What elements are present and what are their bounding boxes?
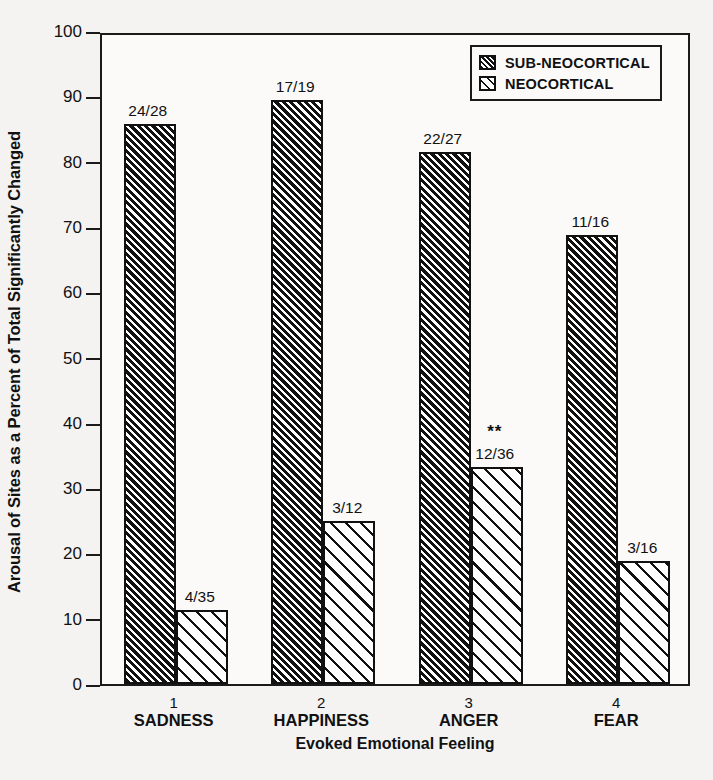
x-tick-label: ANGER <box>439 711 499 730</box>
legend-item: SUB-NEOCORTICAL <box>479 52 650 73</box>
x-axis-title: Evoked Emotional Feeling <box>100 735 690 753</box>
x-tick-label: HAPPINESS <box>274 711 369 730</box>
bar-happiness-neocortical <box>323 521 375 684</box>
legend-label-sub-neocortical: SUB-NEOCORTICAL <box>505 55 650 71</box>
legend: SUB-NEOCORTICAL NEOCORTICAL <box>470 45 662 101</box>
bar-value-label: 22/27 <box>423 130 462 148</box>
x-tick-number: 1 <box>170 694 178 711</box>
legend-label-neocortical: NEOCORTICAL <box>505 76 614 92</box>
bar-value-label: 3/12 <box>332 499 362 517</box>
legend-item: NEOCORTICAL <box>479 73 650 94</box>
y-tick-label: 20 <box>0 544 91 564</box>
y-tick-label: 0 <box>0 675 91 695</box>
x-tick-number: 2 <box>317 694 325 711</box>
x-tick-number: 4 <box>612 694 620 711</box>
bar-sadness-sub-neocortical <box>124 124 176 684</box>
y-tick-label: 50 <box>0 349 91 369</box>
bar-anger-sub-neocortical <box>419 152 471 684</box>
y-tick-label: 90 <box>0 87 91 107</box>
y-tick-label: 70 <box>0 218 91 238</box>
x-tick-label: FEAR <box>594 711 639 730</box>
legend-swatch-sub-neocortical <box>479 55 496 70</box>
y-tick-label: 80 <box>0 153 91 173</box>
bar-value-label: 17/19 <box>276 78 315 96</box>
y-tick-label: 40 <box>0 414 91 434</box>
y-tick-label: 10 <box>0 610 91 630</box>
significance-marker: ** <box>487 422 502 442</box>
bar-value-label: 24/28 <box>128 102 167 120</box>
x-tick-label: SADNESS <box>134 711 214 730</box>
bar-sadness-neocortical <box>176 610 228 684</box>
bar-value-label: 12/36 <box>475 445 514 463</box>
x-tick-number: 3 <box>465 694 473 711</box>
bar-chart-figure: Arousal of Sites as a Percent of Total S… <box>0 0 713 780</box>
y-tick-label: 60 <box>0 283 91 303</box>
bar-value-label: 4/35 <box>185 588 215 606</box>
legend-swatch-neocortical <box>479 76 496 91</box>
y-tick-label: 30 <box>0 479 91 499</box>
bar-fear-sub-neocortical <box>566 235 618 684</box>
y-tick-label: 100 <box>0 22 91 42</box>
bar-value-label: 11/16 <box>571 213 609 231</box>
bar-happiness-sub-neocortical <box>271 100 323 684</box>
bar-fear-neocortical <box>618 561 670 684</box>
bar-value-label: 3/16 <box>627 539 657 557</box>
bar-anger-neocortical <box>471 467 523 684</box>
